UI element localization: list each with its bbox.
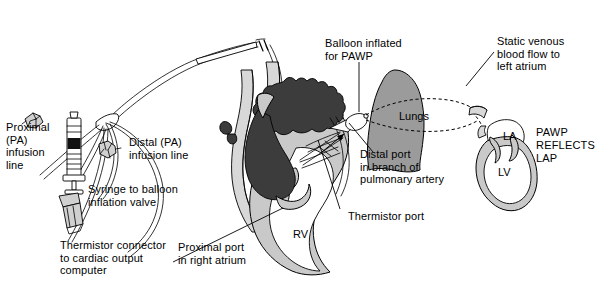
label-proximal-infusion-line: Proximal (PA) infusion line [6, 121, 50, 171]
label-distal-port-pulmonary-artery: Distal port in branch of pulmonary arter… [360, 148, 444, 186]
tag-lungs: Lungs [399, 110, 429, 123]
label-syringe-to-balloon-inflation-valve: Syringe to balloon inflation valve [88, 183, 178, 208]
label-pawp-reflects-lap: PAWP REFLECTS LAP [536, 126, 595, 165]
label-distal-infusion-line: Distal (PA) infusion line [129, 136, 188, 161]
left-heart-group [469, 106, 537, 210]
catheter-marker-bands [256, 39, 268, 51]
tag-left-ventricle: LV [498, 166, 511, 179]
label-balloon-inflated-for-pawp: Balloon inflated for PAWP [325, 37, 402, 62]
balloon-inflation-syringe [63, 112, 85, 194]
label-thermistor-connector: Thermistor connector to cardiac output c… [60, 239, 166, 277]
label-proximal-port-right-atrium: Proximal port in right atrium [178, 241, 246, 266]
label-static-venous-blood-flow: Static venous blood flow to left atrium [497, 35, 564, 73]
diagram-canvas: .k{fill:none;stroke:#000;stroke-width:1;… [0, 0, 598, 288]
tag-left-atrium: LA [503, 130, 516, 143]
tag-right-ventricle: RV [293, 228, 308, 241]
label-thermistor-port: Thermistor port [348, 210, 424, 223]
heart-right-group [245, 77, 349, 274]
